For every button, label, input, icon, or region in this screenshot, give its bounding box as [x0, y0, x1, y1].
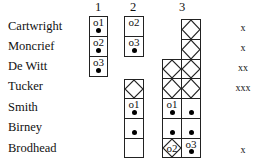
row-name-brodhead: Brodhead — [8, 141, 57, 155]
crosshatch-icon — [163, 79, 181, 98]
cell-label: o2 — [163, 143, 181, 154]
row-name-cartwright: Cartwright — [8, 19, 62, 33]
cell-col3b-smith — [181, 98, 201, 119]
dot-icon — [170, 130, 175, 135]
row-name-tucker: Tucker — [8, 79, 43, 93]
cell-col2-brodhead — [124, 138, 144, 158]
cell-col2-tucker — [124, 79, 144, 99]
cell-label: o1 — [125, 99, 143, 110]
cell-col3b-brodhead: o3 — [181, 138, 201, 158]
cell-col3b-de-witt — [181, 59, 201, 79]
cell-col1-cartwright: o1 — [89, 16, 108, 37]
dot-icon — [189, 130, 194, 135]
crosshatch-icon — [125, 80, 143, 98]
dot-icon — [96, 68, 101, 73]
cell-label: o3 — [125, 37, 143, 48]
cell-col1-moncrief: o2 — [89, 36, 108, 57]
column-header-3: 3 — [172, 0, 192, 14]
row-mark-de-witt: xx — [228, 62, 258, 74]
cell-label: o2 — [90, 37, 107, 48]
dot-icon — [96, 28, 101, 33]
dot-icon — [96, 48, 101, 53]
cell-col2-cartwright: o2 — [124, 16, 144, 37]
cell-col3a-brodhead: o2 — [162, 138, 182, 158]
cell-label: o1 — [163, 99, 181, 110]
dot-icon — [132, 110, 137, 115]
row-mark-brodhead: x — [228, 144, 258, 156]
crosshatch-icon — [182, 79, 200, 98]
cell-label: o3 — [90, 57, 107, 68]
dot-icon — [189, 110, 194, 115]
cell-col3a-de-witt — [162, 59, 182, 79]
row-name-de-witt: De Witt — [8, 59, 47, 73]
cell-col3b-moncrief — [181, 39, 201, 60]
cell-label: o2 — [125, 17, 143, 28]
cell-col2-moncrief: o3 — [124, 36, 144, 57]
cell-col1-de-witt: o3 — [89, 56, 108, 77]
cell-col3b-birney — [181, 118, 201, 139]
row-name-smith: Smith — [8, 100, 38, 114]
cell-label: o1 — [90, 17, 107, 28]
dot-icon — [170, 110, 175, 115]
cell-col3a-birney — [162, 118, 182, 139]
cell-col3a-smith: o1 — [162, 98, 182, 119]
column-header-1: 1 — [88, 0, 108, 14]
row-name-birney: Birney — [8, 120, 42, 134]
column-header-2: 2 — [123, 0, 143, 14]
crosshatch-icon — [182, 20, 200, 39]
row-mark-moncrief: x — [228, 42, 258, 54]
row-name-moncrief: Moncrief — [8, 39, 55, 53]
dot-icon — [132, 130, 137, 135]
cell-col2-smith: o1 — [124, 98, 144, 119]
cell-col3b-tucker — [181, 78, 201, 99]
row-mark-cartwright: x — [228, 22, 258, 34]
crosshatch-icon — [182, 60, 200, 78]
row-mark-tucker: xxx — [228, 82, 258, 94]
crosshatch-icon — [182, 40, 200, 59]
crosshatch-icon — [163, 60, 181, 78]
cell-col2-birney — [124, 118, 144, 139]
dot-icon — [132, 48, 137, 53]
cell-col3a-tucker — [162, 78, 182, 99]
cell-col3b-cartwright — [181, 19, 201, 40]
dot-icon — [189, 149, 194, 154]
